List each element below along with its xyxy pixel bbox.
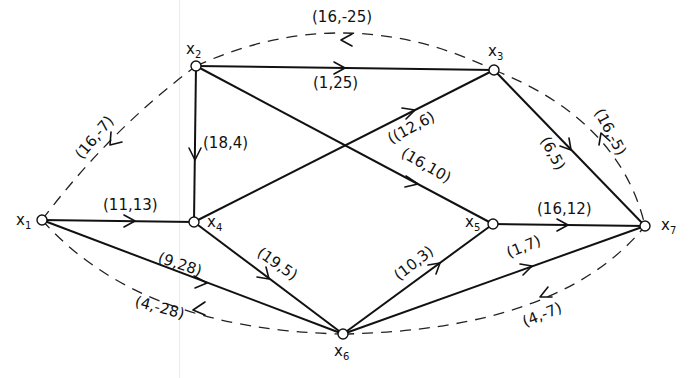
edge-label-x2-x4: (18,4) (203, 134, 248, 152)
edge-x6-x5 (343, 224, 493, 334)
dashed-label-x7-x6: (4,-7) (520, 299, 565, 331)
node-x6[interactable] (338, 329, 348, 339)
node-x3[interactable] (489, 65, 499, 75)
dashed-label-x6-x1: (4,-28) (133, 292, 186, 322)
node-label-x1: x1 (16, 211, 31, 231)
node-label-x4: x4 (207, 213, 222, 233)
node-x5[interactable] (488, 219, 498, 229)
node-x7[interactable] (640, 221, 650, 231)
edge-x5-x7 (493, 224, 645, 226)
node-label-x7: x7 (661, 216, 676, 236)
dashed-label-x7-x3: (16,-5) (590, 105, 630, 158)
node-label-x2: x2 (186, 40, 201, 60)
edge-label-x2-x5: (16,10) (398, 144, 454, 187)
edge-label-x1-x4: (11,13) (103, 196, 158, 214)
node-x4[interactable] (189, 217, 199, 227)
edge-x6-x7 (343, 226, 645, 334)
node-label-x3: x3 (488, 42, 503, 62)
edge-label-x5-x7: (16,12) (537, 200, 592, 218)
arrow-left-icon (341, 34, 352, 46)
edge-x1-x4 (42, 220, 194, 222)
node-x2[interactable] (191, 61, 201, 71)
edge-labels: (11,13) (9,28) (1,25) (18,4) (16,10) ((1… (71, 8, 630, 331)
dashed-label-x3-x2: (16,-25) (312, 8, 372, 26)
node-label-x6: x6 (334, 342, 349, 362)
edge-label-x2-x3: (1,25) (313, 74, 358, 92)
edge-label-x6-x7: (1,7) (504, 232, 544, 262)
edge-label-x3-x7: (6,5) (536, 133, 569, 173)
edge-label-x6-x5: (10,3) (390, 242, 437, 284)
node-x1[interactable] (37, 215, 47, 225)
edge-x2-x4 (194, 66, 196, 222)
arrow-down-left-icon (110, 132, 122, 145)
edge-label-x1-x6: (9,28) (156, 249, 204, 280)
network-diagram: x1 x2 x3 x4 x5 x6 x7 (11,13) (9,28) (1,2… (0, 0, 698, 378)
